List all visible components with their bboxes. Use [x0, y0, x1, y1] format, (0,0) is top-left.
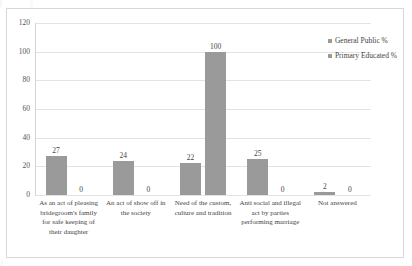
- x-axis-category-label: Need of the custom, culture and traditio…: [169, 199, 236, 237]
- plot-area: 020406080100120 2702402210025020 As an a…: [7, 9, 403, 257]
- bar-value-label: 27: [52, 147, 60, 155]
- bar-value-label: 0: [348, 186, 352, 194]
- bar-value-label: 22: [187, 154, 195, 162]
- bar-value-label: 0: [79, 186, 83, 194]
- x-axis-category-label: As an act of pleasing bridegroom's famil…: [35, 199, 102, 237]
- bar[interactable]: [247, 159, 268, 195]
- bar-value-label: 24: [120, 152, 128, 160]
- bar-column: 0: [272, 23, 293, 195]
- legend-swatch-icon: [328, 39, 332, 43]
- bar-column: 27: [46, 23, 67, 195]
- bar-column: 25: [247, 23, 268, 195]
- legend-label: General Public %: [335, 37, 388, 45]
- bar-column: 22: [180, 23, 201, 195]
- legend-swatch-icon: [328, 54, 332, 58]
- bar-value-label: 2: [323, 183, 327, 191]
- y-axis: 020406080100120: [7, 23, 33, 195]
- bar-column: 100: [205, 23, 226, 195]
- y-axis-tick: 60: [23, 105, 31, 113]
- scan-artifact-top: [0, 0, 412, 7]
- bar[interactable]: [180, 163, 201, 195]
- legend-label: Primary Educated %: [335, 52, 397, 60]
- chart-legend: General Public %Primary Educated %: [328, 37, 397, 60]
- scan-artifact-bottom: [0, 260, 412, 266]
- bar-group: 240: [102, 23, 169, 195]
- bar[interactable]: [113, 161, 134, 195]
- bar-column: 0: [138, 23, 159, 195]
- bar-value-label: 25: [254, 150, 262, 158]
- bar[interactable]: [46, 156, 67, 195]
- bar[interactable]: [205, 52, 226, 195]
- bar-group: 22100: [169, 23, 236, 195]
- x-axis-category-label: Anti social and illegal act by parties p…: [237, 199, 304, 237]
- legend-item[interactable]: Primary Educated %: [328, 52, 397, 60]
- x-axis-category-label: Not answered: [304, 199, 371, 237]
- y-axis-tick: 40: [23, 134, 31, 142]
- bar-group: 250: [237, 23, 304, 195]
- bar-group: 270: [35, 23, 102, 195]
- bar-value-label: 0: [281, 186, 285, 194]
- y-axis-tick: 0: [26, 191, 30, 199]
- bar-value-label: 100: [210, 43, 221, 51]
- bar-column: 24: [113, 23, 134, 195]
- y-axis-tick: 20: [23, 163, 31, 171]
- gridline: [35, 195, 371, 196]
- bar-column: 0: [71, 23, 92, 195]
- bar-value-label: 0: [146, 186, 150, 194]
- y-axis-tick: 120: [19, 19, 30, 27]
- bar-series-area: 2702402210025020: [35, 23, 371, 195]
- y-axis-tick: 80: [23, 77, 31, 85]
- chart-container: 020406080100120 2702402210025020 As an a…: [6, 8, 404, 258]
- legend-item[interactable]: General Public %: [328, 37, 397, 45]
- bar[interactable]: [314, 192, 335, 195]
- x-axis-category-label: An act of show off in the society: [102, 199, 169, 237]
- y-axis-tick: 100: [19, 48, 30, 56]
- x-axis-labels: As an act of pleasing bridegroom's famil…: [35, 199, 371, 237]
